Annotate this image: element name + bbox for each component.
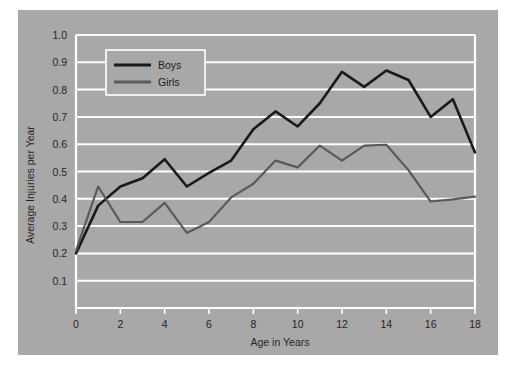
- x-tick-label: 8: [250, 318, 256, 330]
- y-tick-label: 0.1: [52, 275, 67, 287]
- y-tick-label: 0.9: [52, 56, 67, 68]
- x-axis-title: Age in Years: [251, 336, 310, 348]
- x-tick-label: 0: [73, 318, 79, 330]
- series-line-girls: [76, 145, 475, 251]
- x-tick-label: 14: [380, 318, 392, 330]
- x-tick-label: 12: [336, 318, 348, 330]
- y-axis-title: Average Injuries per Year: [24, 126, 36, 244]
- chart-legend: Boys Girls: [106, 50, 205, 95]
- chart-screenshot: 0.10.20.30.40.50.60.70.80.91.0 024681012…: [0, 0, 514, 370]
- x-tick-label: 2: [117, 318, 123, 330]
- legend-label-girls: Girls: [158, 76, 180, 88]
- y-tick-label: 0.5: [52, 166, 67, 178]
- x-axis-tick-labels: 024681012141618: [73, 318, 481, 330]
- y-tick-label: 0.2: [52, 247, 67, 259]
- x-tick-label: 18: [469, 318, 481, 330]
- y-tick-label: 0.6: [52, 138, 67, 150]
- x-tick-label: 6: [206, 318, 212, 330]
- y-tick-label: 0.8: [52, 84, 67, 96]
- y-tick-label: 1.0: [52, 29, 67, 41]
- y-axis-tick-labels: 0.10.20.30.40.50.60.70.80.91.0: [52, 29, 67, 287]
- x-tick-label: 4: [162, 318, 168, 330]
- y-tick-label: 0.3: [52, 220, 67, 232]
- x-tick-label: 10: [292, 318, 304, 330]
- line-chart-plot: 0.10.20.30.40.50.60.70.80.91.0 024681012…: [18, 10, 498, 355]
- y-tick-label: 0.4: [52, 193, 67, 205]
- chart-card: 0.10.20.30.40.50.60.70.80.91.0 024681012…: [18, 10, 498, 355]
- x-tick-label: 16: [425, 318, 437, 330]
- legend-frame: [106, 50, 205, 95]
- legend-label-boys: Boys: [158, 59, 181, 71]
- y-tick-label: 0.7: [52, 111, 67, 123]
